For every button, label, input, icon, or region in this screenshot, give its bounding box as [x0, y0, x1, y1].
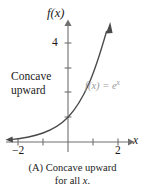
- y-tick-label-4: 4: [52, 37, 58, 49]
- caption-line-1: (A) Concave upward: [28, 162, 116, 173]
- curve-arrowhead-top-icon: [106, 22, 113, 34]
- concave-annotation-line-1: Concave: [11, 70, 67, 84]
- caption-line-2-prefix: for all: [55, 175, 83, 186]
- curve-equation-exponent: x: [117, 78, 120, 87]
- x-axis-title: x: [133, 135, 138, 147]
- caption-line-2-suffix: .: [88, 175, 91, 186]
- curve-equation-label: f(x) = ex: [85, 81, 120, 92]
- caption-line-2: for all x.: [0, 174, 145, 187]
- figure-concave-upward: f(x) x −2 2 4 Concave upward f(x) = ex (…: [0, 0, 145, 190]
- concave-upward-annotation: Concave upward: [11, 70, 67, 97]
- x-tick-label-neg2: −2: [12, 145, 24, 157]
- curve-equation-base: f(x) = e: [85, 80, 117, 91]
- x-tick-label-pos2: 2: [115, 145, 121, 157]
- y-axis-title: f(x): [47, 7, 64, 20]
- concave-annotation-line-2: upward: [11, 84, 67, 98]
- figure-caption: (A) Concave upward for all x.: [0, 161, 145, 187]
- y-axis-arrowhead-icon: [64, 20, 71, 27]
